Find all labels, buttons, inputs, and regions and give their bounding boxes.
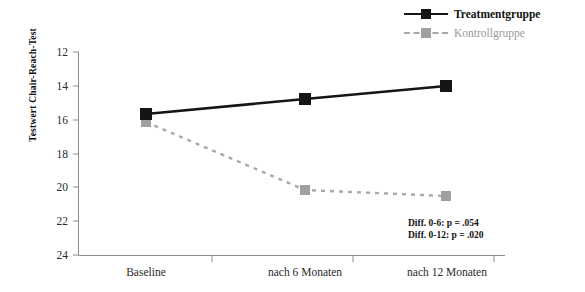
y-axis-ticks (73, 52, 79, 255)
chart-plot-area (0, 0, 585, 292)
annotation-diff-0-12: Diff. 0-12: p = .020 (408, 230, 484, 242)
chart-annotations: Diff. 0-6: p = .054 Diff. 0-12: p = .020 (408, 218, 484, 241)
y-tick-label-22: 22 (42, 215, 68, 227)
legend-square-marker-icon (421, 9, 431, 19)
x-axis-ticks (212, 256, 494, 263)
legend-swatch-treatmentgruppe (404, 7, 448, 21)
y-tick-label-20: 20 (42, 181, 68, 193)
legend-swatch-kontrollgruppe (404, 26, 448, 40)
series-line-treatmentgruppe (146, 86, 446, 114)
y-tick-label-16: 16 (42, 114, 68, 126)
chart-container: Testwert Chair-Reach-Test 12 14 16 18 20… (0, 0, 585, 292)
series-line-kontrollgruppe (146, 122, 446, 196)
legend-item-kontrollgruppe: Kontrollgruppe (404, 23, 585, 42)
y-tick-label-12: 12 (42, 46, 68, 58)
y-axis-title: Testwert Chair-Reach-Test (28, 0, 38, 180)
y-tick-label-18: 18 (42, 148, 68, 160)
annotation-diff-0-6: Diff. 0-6: p = .054 (408, 218, 484, 230)
y-tick-label-14: 14 (42, 80, 68, 92)
x-tick-label-12-months: nach 12 Monaten (407, 266, 487, 278)
legend-square-marker-icon (421, 28, 431, 38)
y-tick-label-24: 24 (42, 249, 68, 261)
series-markers-kontrollgruppe (141, 117, 451, 201)
chart-legend: Treatmentgruppe Kontrollgruppe (404, 4, 585, 42)
legend-item-treatmentgruppe: Treatmentgruppe (404, 4, 585, 23)
x-tick-label-baseline: Baseline (126, 266, 166, 278)
x-tick-label-6-months: nach 6 Monaten (268, 266, 342, 278)
legend-label-kontrollgruppe: Kontrollgruppe (448, 27, 525, 39)
legend-label-treatmentgruppe: Treatmentgruppe (448, 8, 540, 20)
